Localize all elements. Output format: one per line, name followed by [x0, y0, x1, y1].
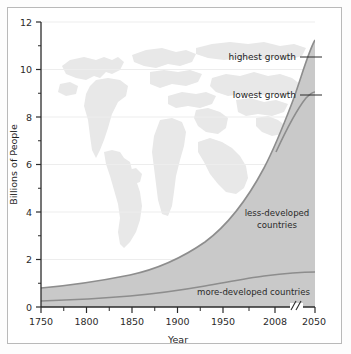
x-tick-label-1900: 1900: [165, 316, 189, 327]
y-tick-label-6: 6: [26, 159, 32, 170]
x-axis-title: Year: [167, 334, 188, 345]
population-growth-chart: 12 10 8 6 4 2 0 Billions of People: [0, 0, 351, 354]
annotation-lowest-growth: lowest growth: [233, 90, 296, 100]
chart-figure: 12 10 8 6 4 2 0 Billions of People: [0, 0, 351, 354]
y-axis-title: Billions of People: [8, 124, 19, 205]
y-tick-label-2: 2: [26, 254, 32, 265]
x-tick-label-1800: 1800: [74, 316, 98, 327]
x-tick-label-1850: 1850: [120, 316, 144, 327]
y-major-ticks: [36, 22, 41, 307]
y-tick-label-0: 0: [26, 302, 32, 313]
band-label-more-developed: more-developed countries: [197, 287, 311, 297]
band-label-less-developed-line2: countries: [257, 220, 297, 230]
y-tick-label-10: 10: [20, 64, 32, 75]
x-tick-label-2050: 2050: [302, 316, 326, 327]
y-tick-label-8: 8: [26, 112, 32, 123]
x-tick-label-1950: 1950: [211, 316, 235, 327]
x-tick-label-2008: 2008: [263, 316, 287, 327]
band-label-less-developed-line1: less-developed: [245, 208, 310, 218]
y-tick-label-12: 12: [20, 17, 32, 28]
x-major-ticks: [41, 307, 315, 313]
x-tick-label-1750: 1750: [29, 316, 53, 327]
annotation-highest-growth: highest growth: [228, 52, 296, 62]
y-tick-label-4: 4: [26, 207, 32, 218]
